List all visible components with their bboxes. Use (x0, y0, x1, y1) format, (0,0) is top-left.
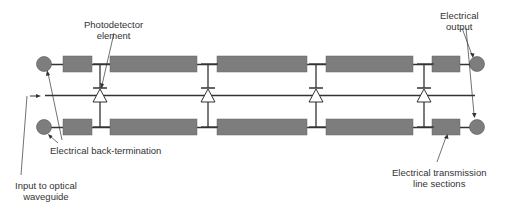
transmission-sections-label: Electrical transmission line sections (392, 167, 487, 189)
back-termination-label-line1: Electrical back-termination (50, 145, 161, 156)
back-termination-label: Electrical back-termination (50, 145, 161, 156)
top-transmission-line-section (432, 56, 460, 72)
photodetector-element-label: Photodetector element (84, 19, 143, 41)
electrical-output-label: Electrical output (440, 10, 479, 32)
top-transmission-line-section (110, 56, 197, 72)
input-waveguide-label-line1: Input to optical (15, 180, 77, 191)
bottom-transmission-line-section (326, 119, 413, 135)
transmission-sections-label-line2: line sections (392, 178, 487, 189)
top-transmission-line-section (217, 56, 307, 72)
input-waveguide-label: Input to optical waveguide (15, 180, 77, 202)
output-leader-bottom (466, 28, 474, 114)
transmission-sections-leader (437, 137, 446, 162)
input-arrow-head (36, 94, 41, 98)
bottom-left-terminal (37, 120, 52, 135)
top-left-terminal (37, 57, 52, 72)
input-waveguide-label-line2: waveguide (15, 191, 77, 202)
photodetector-label-line1: Photodetector (84, 19, 143, 30)
input-waveguide-leader (21, 96, 27, 175)
output-leader-bottom-arrow (472, 113, 477, 118)
transmission-sections-label-line1: Electrical transmission (392, 167, 487, 178)
top-transmission-line-section (326, 56, 413, 72)
back-termination-leader-bottom-arrow (48, 134, 53, 139)
bottom-transmission-line-section (63, 119, 92, 135)
bottom-transmission-line-section (432, 119, 460, 135)
bottom-transmission-line-section (110, 119, 197, 135)
top-right-output-terminal (470, 57, 485, 72)
top-transmission-line-section (63, 56, 92, 72)
electrical-output-label-line2: output (440, 21, 479, 32)
bottom-transmission-line-section (217, 119, 307, 135)
bottom-right-output-terminal (470, 120, 485, 135)
photodetector-label-line2: element (84, 30, 143, 41)
electrical-output-label-line1: Electrical (440, 10, 479, 21)
